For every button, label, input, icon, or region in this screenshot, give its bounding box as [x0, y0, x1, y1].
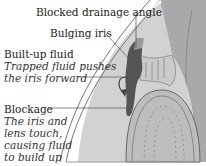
label-built-up-fluid-desc-1: Trapped fluid pushes [4, 60, 116, 72]
label-blockage-desc-1: The iris and [4, 115, 68, 127]
label-blockage-desc-4: to build up [4, 151, 62, 163]
label-bulging-iris: Bulging iris [50, 27, 112, 39]
label-blocked-drainage-angle: Blocked drainage angle [36, 6, 162, 18]
label-blockage-desc-3: causing fluid [4, 139, 72, 151]
label-blockage-desc-2: lens touch, [4, 127, 62, 139]
label-built-up-fluid: Built-up fluid [4, 48, 74, 60]
label-built-up-fluid-desc-2: the iris forward [4, 72, 87, 84]
label-blockage: Blockage [4, 103, 53, 115]
